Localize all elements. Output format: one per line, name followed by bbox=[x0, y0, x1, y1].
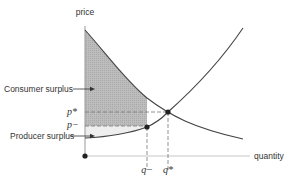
q-star-label: q* bbox=[163, 164, 173, 175]
p-star-label: p* bbox=[66, 106, 77, 117]
restricted-point bbox=[144, 124, 149, 129]
supply-demand-diagram: price quantity p* p− q− q* Consumer surp… bbox=[0, 0, 292, 179]
equilibrium-point bbox=[165, 109, 170, 114]
q-minus-label: q− bbox=[141, 164, 153, 175]
producer-surplus-label: Producer surplus bbox=[10, 131, 74, 141]
y-axis-label: price bbox=[76, 7, 95, 17]
p-minus-label: p− bbox=[66, 119, 79, 130]
origin-point bbox=[82, 153, 87, 158]
x-axis-label: quantity bbox=[254, 151, 285, 161]
consumer-surplus-label: Consumer surplus bbox=[4, 84, 73, 94]
